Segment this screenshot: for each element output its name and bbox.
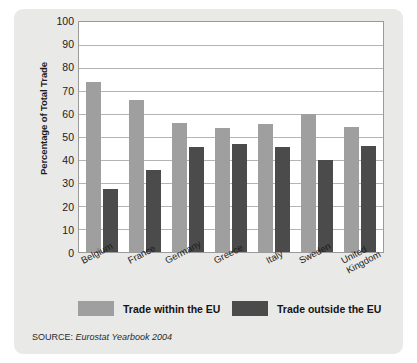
chart-legend: Trade within the EU Trade outside the EU xyxy=(14,301,403,323)
legend-label-within: Trade within the EU xyxy=(123,303,220,315)
legend-item-trade-within-eu: Trade within the EU xyxy=(78,301,220,316)
source-prefix: SOURCE: xyxy=(32,332,73,342)
bar-trade-within-eu xyxy=(129,100,144,252)
y-axis-tick: 0 xyxy=(44,247,74,259)
y-axis-tick: 20 xyxy=(44,201,74,213)
source-note: SOURCE: Eurostat Yearbook 2004 xyxy=(32,332,172,342)
bar-trade-within-eu xyxy=(258,124,273,252)
y-axis-tick: 60 xyxy=(44,108,74,120)
bar-trade-within-eu xyxy=(172,123,187,252)
y-axis-tick: 40 xyxy=(44,154,74,166)
bar-group xyxy=(252,22,295,252)
plot-block: Percentage of Total Trade 01020304050607… xyxy=(14,9,403,264)
bar-group xyxy=(210,22,253,252)
bar-trade-outside-eu xyxy=(232,144,247,252)
y-axis-tick: 100 xyxy=(44,15,74,27)
bar-group xyxy=(81,22,124,252)
bar-trade-within-eu xyxy=(86,82,101,252)
plot-area xyxy=(78,21,384,253)
bar-trade-outside-eu xyxy=(361,146,376,252)
y-axis-tick: 50 xyxy=(44,131,74,143)
y-axis-tick: 90 xyxy=(44,38,74,50)
bar-group xyxy=(295,22,338,252)
bar-group xyxy=(124,22,167,252)
legend-item-trade-outside-eu: Trade outside the EU xyxy=(232,301,381,316)
bar-trade-within-eu xyxy=(301,114,316,252)
legend-swatch-icon-outside xyxy=(232,301,268,316)
y-axis-tick: 80 xyxy=(44,61,74,73)
bar-trade-within-eu xyxy=(344,127,359,252)
bar-trade-outside-eu xyxy=(189,147,204,252)
source-reference: Eurostat Yearbook 2004 xyxy=(76,332,172,342)
y-axis-tick: 10 xyxy=(44,224,74,236)
bar-trade-outside-eu xyxy=(318,160,333,252)
bar-trade-outside-eu xyxy=(146,170,161,252)
chart-figure: Percentage of Total Trade 01020304050607… xyxy=(14,9,403,354)
legend-swatch-icon-within xyxy=(78,301,114,316)
legend-label-outside: Trade outside the EU xyxy=(277,303,381,315)
bar-trade-within-eu xyxy=(215,128,230,252)
bar-trade-outside-eu xyxy=(275,147,290,252)
y-axis-tick-labels: 0102030405060708090100 xyxy=(44,21,74,253)
bar-groups xyxy=(79,22,383,252)
bar-group xyxy=(338,22,381,252)
y-axis-tick: 30 xyxy=(44,177,74,189)
bar-group xyxy=(167,22,210,252)
y-axis-tick: 70 xyxy=(44,85,74,97)
